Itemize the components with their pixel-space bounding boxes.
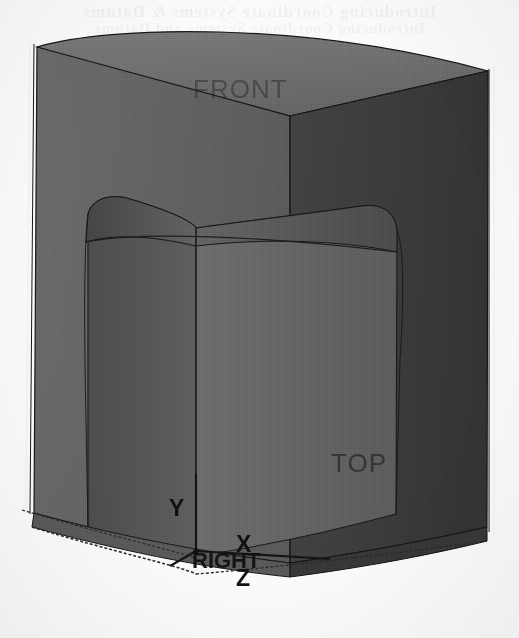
axis-origin-marker	[193, 548, 198, 553]
model-viewport[interactable]: Introducing Coordinate Systems & Datums …	[0, 0, 519, 638]
solid-model-graphic[interactable]	[0, 0, 519, 638]
pocket-cavity	[85, 197, 403, 556]
